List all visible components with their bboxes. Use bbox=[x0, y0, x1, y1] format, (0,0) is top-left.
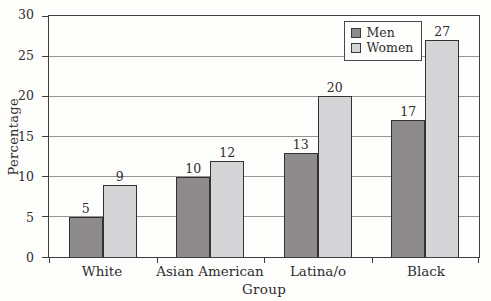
y-tick-5 bbox=[42, 216, 48, 217]
grouped-bar-chart-figure: Percentage 051015202530 59101213201727 M… bbox=[0, 0, 491, 301]
bar-value-label: 13 bbox=[293, 137, 309, 152]
x-category-label-black: Black bbox=[372, 263, 480, 279]
bar-women-asian-american: 12 bbox=[210, 145, 244, 257]
x-axis-title: Group bbox=[48, 281, 480, 297]
y-tick-10 bbox=[42, 176, 48, 177]
y-tick-label-15: 15 bbox=[18, 129, 34, 145]
legend-item-women: Women bbox=[351, 41, 414, 55]
y-tick-15 bbox=[42, 136, 48, 137]
y-tick-label-30: 30 bbox=[18, 7, 34, 23]
bar-rect bbox=[284, 153, 318, 257]
bar-value-label: 12 bbox=[219, 145, 235, 160]
bar-rect bbox=[318, 96, 352, 257]
y-tick-0 bbox=[42, 257, 48, 258]
x-category-label-white: White bbox=[48, 263, 156, 279]
y-tick-label-5: 5 bbox=[26, 210, 34, 226]
legend: MenWomen bbox=[344, 21, 423, 61]
x-category-label-asian-american: Asian American bbox=[156, 263, 264, 279]
bar-rect bbox=[210, 161, 244, 257]
bar-value-label: 9 bbox=[116, 169, 124, 184]
group-asian-american: 1012 bbox=[157, 16, 265, 257]
bar-women-black: 27 bbox=[425, 24, 459, 257]
bar-men-latina-o: 13 bbox=[284, 137, 318, 257]
legend-swatch-women bbox=[351, 43, 361, 53]
bar-women-latina-o: 20 bbox=[318, 80, 352, 257]
bar-value-label: 20 bbox=[327, 80, 343, 95]
bar-rect bbox=[69, 217, 103, 257]
bar-men-black: 17 bbox=[391, 104, 425, 257]
group-white: 59 bbox=[49, 16, 157, 257]
y-tick-25 bbox=[42, 56, 48, 57]
bar-men-white: 5 bbox=[69, 201, 103, 257]
legend-swatch-men bbox=[351, 28, 361, 38]
y-tick-label-10: 10 bbox=[18, 169, 34, 185]
y-tick-20 bbox=[42, 96, 48, 97]
bar-men-asian-american: 10 bbox=[176, 161, 210, 257]
y-axis: 051015202530 bbox=[0, 15, 42, 258]
bar-rect bbox=[391, 120, 425, 257]
bar-value-label: 17 bbox=[400, 104, 416, 119]
bar-women-white: 9 bbox=[103, 169, 137, 257]
bar-rect bbox=[425, 40, 459, 257]
bar-rect bbox=[103, 185, 137, 257]
y-tick-label-25: 25 bbox=[18, 48, 34, 64]
y-tick-label-0: 0 bbox=[26, 250, 34, 266]
y-tick-30 bbox=[42, 16, 48, 17]
bar-value-label: 10 bbox=[185, 161, 201, 176]
legend-label-women: Women bbox=[367, 41, 414, 55]
legend-item-men: Men bbox=[351, 26, 414, 40]
bar-rect bbox=[176, 177, 210, 257]
plot-area: 59101213201727 MenWomen bbox=[48, 15, 480, 258]
legend-label-men: Men bbox=[367, 26, 395, 40]
y-tick-label-20: 20 bbox=[18, 88, 34, 104]
x-category-label-latina-o: Latina/o bbox=[264, 263, 372, 279]
x-axis-category-labels: WhiteAsian AmericanLatina/oBlack bbox=[48, 263, 480, 279]
bar-value-label: 27 bbox=[434, 24, 450, 39]
bar-value-label: 5 bbox=[82, 201, 90, 216]
